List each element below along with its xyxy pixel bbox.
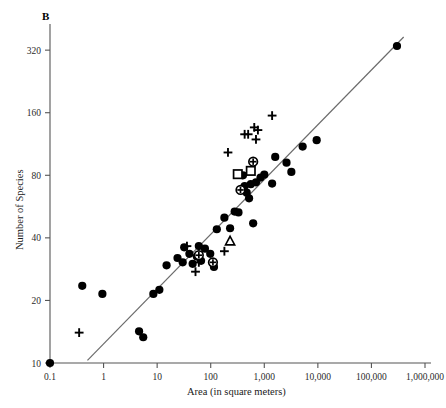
filled-circle-icon [287,168,295,176]
filled-circle-icon [313,136,321,144]
marker-circle [155,286,163,294]
x-tick-label: 10 [152,372,162,382]
series-filled-circle [46,42,401,367]
filled-circle-icon [189,260,197,268]
filled-circle-icon [226,224,234,232]
marker-circle-plus [236,186,245,195]
marker-circle [220,214,228,222]
marker-circle [245,194,253,202]
marker-circle [287,168,295,176]
marker-triangle [225,236,234,245]
filled-circle-icon [139,333,147,341]
filled-circle-icon [78,282,86,290]
marker-circle [393,42,401,50]
marker-square [234,170,242,178]
marker-circle [249,219,257,227]
marker-plus [224,148,233,157]
y-tick-label: 20 [32,296,42,306]
filled-circle-icon [282,159,290,167]
filled-circle-icon [155,286,163,294]
y-tick-label: 160 [27,108,42,118]
filled-circle-icon [234,208,242,216]
marker-circle-plus [249,157,258,166]
filled-circle-icon [271,153,279,161]
x-tick-label: 100 [204,372,219,382]
y-tick-label: 320 [27,46,42,56]
marker-square [247,167,255,175]
x-tick-label: 1 [101,372,106,382]
marker-circle [46,359,54,367]
filled-circle-icon [46,359,54,367]
marker-circle-plus [209,258,218,267]
marker-circle [313,136,321,144]
marker-circle [206,250,214,258]
series-open-triangle [225,236,234,245]
marker-circle [185,250,193,258]
marker-circle [139,333,147,341]
marker-circle [271,153,279,161]
marker-circle [268,179,276,187]
marker-circle [189,260,197,268]
x-tick-label: 1,000 [254,372,276,382]
species-area-chart: B Number of Species Area (in square mete… [0,0,446,408]
filled-circle-icon [162,261,170,269]
x-tick-label: 1,000,000 [406,372,444,382]
series-plus [75,111,277,337]
plot-area: 102040801603200.11101001,00010,000100,00… [0,0,446,408]
axes [45,24,431,368]
x-tick-label: 10,000 [305,372,331,382]
filled-circle-icon [260,171,268,179]
marker-plus [220,247,229,256]
x-tick-label: 100,000 [356,372,387,382]
marker-circle [213,225,221,233]
marker-circle [299,142,307,150]
filled-circle-icon [393,42,401,50]
data-points [46,42,401,367]
marker-plus [268,111,277,120]
y-tick-label: 80 [32,171,42,181]
y-tick-label: 40 [32,233,42,243]
open-square-icon [247,167,255,175]
x-tick-label: 0.1 [44,372,56,382]
marker-circle [226,224,234,232]
filled-circle-icon [268,179,276,187]
filled-circle-icon [206,250,214,258]
filled-circle-icon [249,219,257,227]
open-triangle-icon [225,236,234,245]
marker-circle [162,261,170,269]
marker-circle [282,159,290,167]
filled-circle-icon [185,250,193,258]
marker-circle [78,282,86,290]
filled-circle-icon [245,194,253,202]
marker-plus [75,328,84,337]
marker-plus [191,267,200,276]
open-square-icon [234,170,242,178]
marker-circle [179,258,187,266]
marker-circle [234,208,242,216]
filled-circle-icon [98,290,106,298]
marker-circle-plus [195,251,204,260]
filled-circle-icon [213,225,221,233]
y-tick-label: 10 [32,359,42,369]
marker-plus [252,135,261,144]
filled-circle-icon [179,258,187,266]
filled-circle-icon [220,214,228,222]
filled-circle-icon [299,142,307,150]
marker-circle [260,171,268,179]
marker-circle [98,290,106,298]
